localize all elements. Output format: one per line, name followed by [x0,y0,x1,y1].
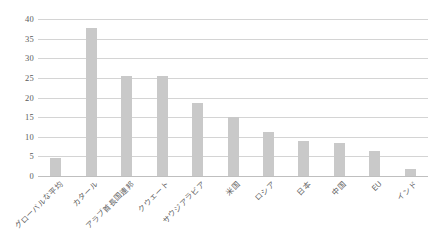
x-tick-label-text: インド [396,180,419,203]
x-tick-label-text: クウェート [137,180,171,214]
x-tick-label-text: 日本 [296,180,313,197]
bar-chart: 4035302520151050 グローバルな平均カタールアラブ首長国連邦クウェ… [0,0,439,248]
y-tick-label: 20 [4,94,34,103]
bar [121,76,132,176]
bar [405,169,416,176]
y-tick-label: 5 [4,152,34,161]
x-tick-label-text: EU [370,180,383,193]
bar [263,132,274,176]
y-tick-label: 25 [4,74,34,83]
bar [369,151,380,176]
y-tick-label: 40 [4,15,34,24]
y-tick-label: 15 [4,113,34,122]
y-tick-label: 10 [4,133,34,142]
bar [192,103,203,176]
x-tick-label-text: 米国 [225,180,242,197]
bar [50,158,61,176]
y-tick-label: 0 [4,172,34,181]
x-tick-label-text: ロシア [254,180,277,203]
y-axis-tick-labels: 4035302520151050 [0,19,34,176]
x-tick-label-text: 中国 [331,180,348,197]
x-axis-tick-labels: グローバルな平均カタールアラブ首長国連邦クウェートサウジアラビア米国ロシア日本中… [38,176,428,248]
bar [334,143,345,176]
y-tick-label: 30 [4,54,34,63]
x-tick-label-text: グローバルな平均 [13,180,64,231]
x-tick-label-text: カタール [72,180,100,208]
y-tick-label: 35 [4,35,34,44]
bar [298,141,309,176]
